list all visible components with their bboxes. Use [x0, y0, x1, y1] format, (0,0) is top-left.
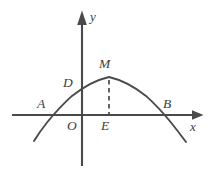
point-label-D: D — [63, 76, 73, 90]
y-axis-label: y — [90, 10, 96, 23]
y-axis-arrowhead — [77, 11, 87, 26]
origin-label-O: O — [67, 119, 77, 133]
point-label-M: M — [99, 57, 110, 71]
point-label-B: B — [163, 97, 171, 111]
point-label-E: E — [101, 119, 109, 133]
parabola-figure: A D M B E O x y — [0, 0, 216, 190]
figure-canvas — [0, 0, 216, 190]
x-axis-label: x — [190, 120, 196, 133]
point-label-A: A — [37, 97, 45, 111]
